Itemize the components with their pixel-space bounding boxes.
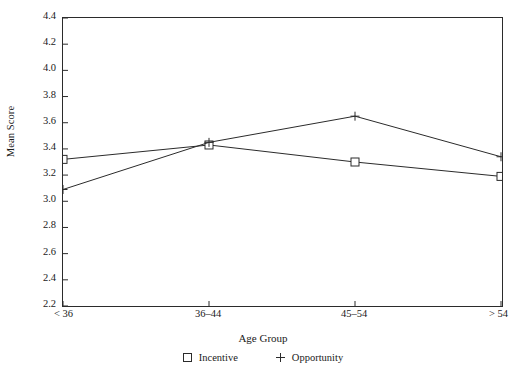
y-axis-tick-label: 4.0 xyxy=(30,63,56,74)
y-axis-tick-label: 4.4 xyxy=(30,11,56,22)
legend-item[interactable]: Incentive xyxy=(183,352,238,363)
data-point-marker xyxy=(63,185,68,194)
x-axis-title: Age Group xyxy=(0,332,526,344)
x-axis-tick-labels: < 3636–4445–54> 54 xyxy=(0,309,526,325)
legend-item-label: Incentive xyxy=(199,352,238,363)
line-chart-figure: Mean Score 4.44.24.03.83.63.43.23.02.82.… xyxy=(0,0,526,376)
x-axis-tick-label: > 54 xyxy=(489,309,508,320)
plot-svg xyxy=(63,18,502,306)
data-point-marker xyxy=(497,172,502,180)
y-axis-tick-label: 3.8 xyxy=(30,90,56,101)
y-axis-tick-label: 3.0 xyxy=(30,194,56,205)
y-axis-tick-label: 2.8 xyxy=(30,220,56,231)
x-axis-tick-label: 45–54 xyxy=(341,309,367,320)
y-axis-title: Mean Score xyxy=(5,92,16,172)
data-point-marker xyxy=(497,152,503,161)
chart-legend: IncentiveOpportunity xyxy=(0,352,526,363)
legend-item[interactable]: Opportunity xyxy=(276,352,343,363)
y-axis-tick-label: 2.6 xyxy=(30,247,56,258)
x-axis-tick-label: < 36 xyxy=(54,309,73,320)
y-axis-tick-label: 3.2 xyxy=(30,168,56,179)
data-point-marker xyxy=(63,155,67,163)
legend-item-label: Opportunity xyxy=(292,352,343,363)
plus-marker-icon xyxy=(276,353,285,362)
x-axis-tick-label: 36–44 xyxy=(195,309,221,320)
y-axis-tick-label: 2.4 xyxy=(30,273,56,284)
y-axis-tick-label: 3.6 xyxy=(30,116,56,127)
square-marker-icon xyxy=(183,353,192,362)
series-line xyxy=(63,145,501,176)
plot-area xyxy=(62,17,503,307)
y-axis-tick-label: 4.2 xyxy=(30,37,56,48)
y-axis-tick-label: 2.2 xyxy=(30,299,56,310)
data-point-marker xyxy=(351,112,360,121)
y-axis-tick-label: 3.4 xyxy=(30,142,56,153)
data-point-marker xyxy=(351,158,359,166)
